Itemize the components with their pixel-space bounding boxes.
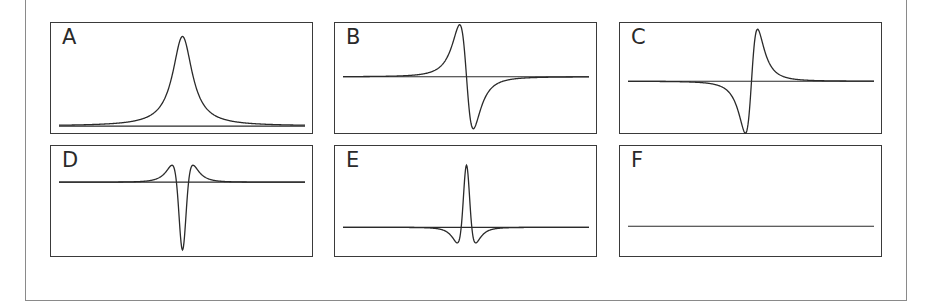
panel-b: B xyxy=(334,22,597,134)
absorption-curve xyxy=(51,23,314,135)
second-derivative-curve xyxy=(335,146,598,259)
panel-f: F xyxy=(619,145,882,257)
signal-curve xyxy=(59,36,305,125)
signal-curve xyxy=(343,165,589,243)
inverted-second-derivative-curve xyxy=(51,146,314,259)
panel-c: C xyxy=(619,22,882,134)
inverted-dispersion-curve xyxy=(620,23,883,135)
flat-line xyxy=(620,146,883,259)
signal-curve xyxy=(628,29,874,133)
signal-curve xyxy=(343,25,589,129)
dispersion-curve xyxy=(335,23,598,135)
panel-e: E xyxy=(334,145,597,257)
signal-curve xyxy=(59,165,305,250)
panel-d: D xyxy=(50,145,313,257)
panel-a: A xyxy=(50,22,313,134)
